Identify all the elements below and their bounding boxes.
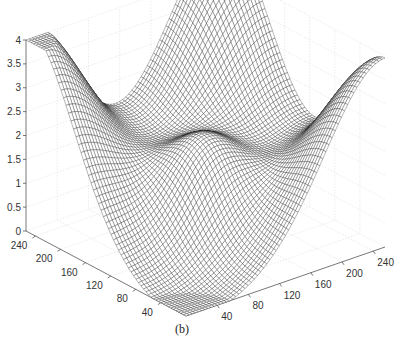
y-tick-label: 200 xyxy=(36,253,53,264)
wireframe-surface xyxy=(26,0,385,316)
y-tick-label: 240 xyxy=(11,240,28,251)
z-tick-label: 3 xyxy=(15,82,21,93)
y-tick-label: 120 xyxy=(86,280,103,291)
x-tick-label: 160 xyxy=(315,279,332,290)
z-tick-label: 2.5 xyxy=(7,106,21,117)
z-tick-label: 2 xyxy=(15,130,21,141)
x-tick-label: 240 xyxy=(377,257,394,268)
y-tick-label: 160 xyxy=(61,267,78,278)
z-tick-label: 1 xyxy=(15,178,21,189)
x-tick-label: 80 xyxy=(252,300,264,311)
x-tick-label: 40 xyxy=(221,311,233,322)
z-tick-label: 1.5 xyxy=(7,154,21,165)
z-tick-label: 0.5 xyxy=(7,202,21,213)
z-tick-label: 0 xyxy=(15,226,21,237)
x-tick-label: 200 xyxy=(346,268,363,279)
x-tick-label: 120 xyxy=(284,290,301,301)
y-tick-label: 40 xyxy=(142,307,154,318)
z-tick-label: 3.5 xyxy=(7,58,21,69)
figure-caption: (b) xyxy=(175,322,189,336)
surface-plot: 00.511.522.533.5424020016012080404080120… xyxy=(0,0,409,348)
z-tick-label: 4 xyxy=(15,35,21,46)
y-tick-label: 80 xyxy=(117,293,129,304)
